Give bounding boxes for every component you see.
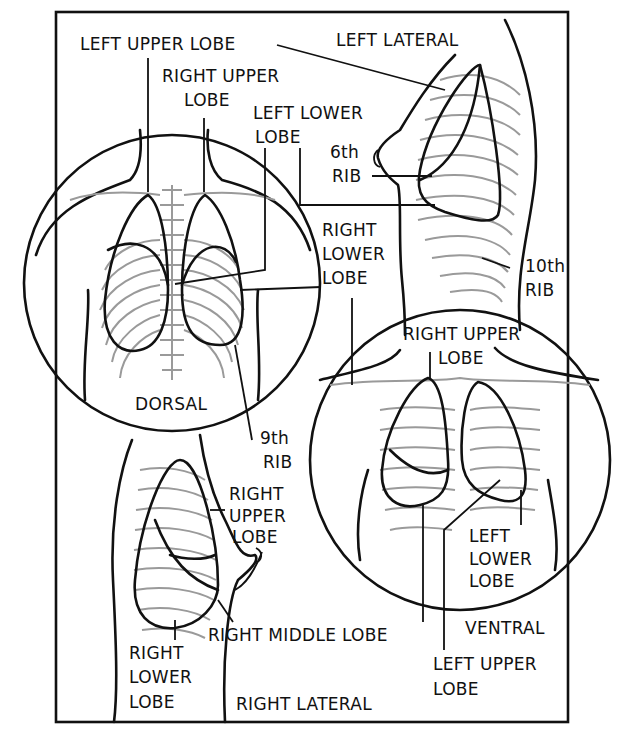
label-left-upper-lobe-bottom-line2: LOBE (433, 679, 479, 700)
label-right-upper-lobe-ventral-line1: RIGHT UPPER (403, 324, 520, 345)
label-left-lower-lobe-line2: LOBE (255, 127, 301, 148)
label-left-upper-lobe-top: LEFT UPPER LOBE (80, 34, 236, 55)
view-title-dorsal: DORSAL (135, 394, 207, 415)
label-right-upper-lobe-top-line2: LOBE (184, 90, 230, 111)
label-right-lower-lobe-bottom-line3: LOBE (129, 692, 175, 713)
lung-lobes-diagram: LEFT UPPER LOBE LEFT LATERAL RIGHT UPPER… (0, 0, 632, 748)
label-9th-rib-line1: 9th (260, 428, 289, 449)
label-right-lower-lobe-bottom-line2: LOWER (129, 667, 192, 688)
label-left-lower-lobe-ventral-line1: LEFT (469, 526, 510, 547)
label-right-lower-lobe-mid-line2: LOWER (322, 244, 385, 265)
label-6th-rib-line1: 6th (330, 142, 359, 163)
label-right-lower-lobe-mid-line3: LOBE (322, 268, 368, 289)
label-right-middle-lobe: RIGHT MIDDLE LOBE (208, 625, 388, 646)
label-6th-rib-line2: RIB (332, 166, 361, 187)
dorsal-view (24, 130, 320, 431)
label-right-upper-lobe-lateral-line1: RIGHT (229, 484, 284, 505)
oblique-fissure-lateral (420, 65, 480, 180)
label-9th-rib-line2: RIB (263, 452, 292, 473)
label-10th-rib-line2: RIB (525, 280, 554, 301)
right-shoulder-outline (208, 130, 310, 250)
label-left-lower-lobe-ventral-line3: LOBE (469, 571, 515, 592)
label-left-lower-lobe-line1: LEFT LOWER (253, 103, 363, 124)
label-right-upper-lobe-ventral-line2: LOBE (438, 348, 484, 369)
view-title-left-lateral: LEFT LATERAL (336, 30, 459, 51)
label-10th-rib-line1: 10th (525, 256, 565, 277)
label-right-lower-lobe-mid-line1: RIGHT (322, 220, 377, 241)
label-right-upper-lobe-top-line1: RIGHT UPPER (162, 66, 279, 87)
left-lung-ventral-outline (462, 382, 526, 501)
label-right-upper-lobe-lateral-line2: UPPER (229, 506, 286, 527)
view-title-right-lateral: RIGHT LATERAL (236, 694, 372, 715)
label-left-lower-lobe-ventral-line2: LOWER (469, 549, 532, 570)
label-right-upper-lobe-lateral-line3: LOBE (232, 527, 278, 548)
right-lung-lateral-outline (135, 460, 218, 628)
left-lateral-view (374, 20, 536, 335)
label-right-lower-lobe-bottom-line1: RIGHT (129, 643, 184, 664)
view-title-ventral: VENTRAL (465, 618, 545, 639)
label-left-upper-lobe-bottom-line1: LEFT UPPER (433, 654, 537, 675)
